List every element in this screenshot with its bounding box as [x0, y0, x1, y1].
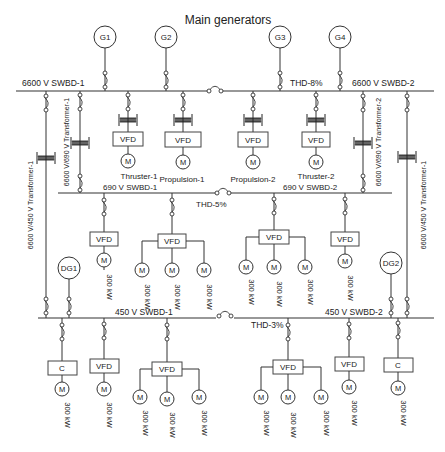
mv-feeder-2[interactable]: VFD M M M 300 kW 300 kW 300 kW — [135, 193, 214, 311]
motor-label: M — [201, 266, 207, 275]
mv-feeder-1-vfd-label: VFD — [96, 235, 112, 244]
lv-feeder-1[interactable]: C M 300 kW — [48, 318, 77, 429]
motor-rating: 300 kW — [306, 279, 315, 305]
mv-feeder-3-vfd-label: VFD — [266, 233, 282, 242]
motor-label: M — [59, 385, 65, 394]
hv-bus-coupler[interactable] — [207, 86, 223, 93]
motor-label: M — [258, 393, 264, 402]
transformer-450v-1-left-label: 6600 V/450 V Transformer-1 — [27, 161, 34, 249]
thruster-2-vfd-label: VFD — [308, 136, 324, 145]
lv-feeder-3[interactable]: VFD M M M 300 kW 300 kW 300 kW — [133, 318, 209, 439]
lv-feeder-3-vfd-label: VFD — [159, 365, 175, 374]
propulsion-2-drive[interactable]: VFD M Propulsion-2 — [231, 91, 276, 184]
motor-rating: 300 kW — [205, 284, 214, 310]
lv-bus: 450 V SWBD-1 450 V SWBD-2 THD-3% — [38, 307, 434, 330]
mv-bus-1-label: 690 V SWBD-1 — [103, 183, 158, 192]
propulsion-2-name: Propulsion-2 — [231, 175, 276, 184]
motor-label: M — [164, 395, 170, 404]
motor-rating: 300 kW — [141, 410, 150, 436]
mv-feeder-3[interactable]: VFD M M M 300 kW 300 kW 300 kW — [239, 193, 315, 308]
motor-rating: 300 kW — [289, 412, 298, 438]
generator-g4[interactable]: G4 — [329, 26, 351, 91]
thruster-1-name: Thruster-1 — [121, 172, 158, 181]
mv-feeder-4[interactable]: VFD M 300 kW — [331, 193, 359, 302]
motor-rating: 300 kW — [262, 410, 271, 436]
mv-feeder-1[interactable]: VFD M 300 kW — [90, 193, 118, 301]
propulsion-1-drive[interactable]: VFD M Propulsion-1 — [160, 91, 205, 184]
generator-g2[interactable]: G2 — [155, 26, 177, 91]
hv-bus: 6600 V SWBD-1 6600 V SWBD-2 THD-8% — [16, 78, 434, 93]
mv-bus-coupler[interactable] — [215, 188, 231, 195]
motor-label: M — [169, 266, 175, 275]
motor-rating: 300 kW — [105, 274, 114, 300]
motor-label: M — [101, 256, 107, 265]
mv-feeder-4-vfd-label: VFD — [337, 235, 353, 244]
motor-label: M — [137, 393, 143, 402]
motor-rating: 300 kW — [173, 284, 182, 310]
motor-rating: 300 kW — [247, 279, 256, 305]
lv-bus-1-label: 450 V SWBD-1 — [115, 307, 173, 317]
mv-bus-2-label: 690 V SWBD-2 — [283, 183, 338, 192]
lv-feeder-2-vfd-label: VFD — [96, 362, 112, 371]
lv-feeder-5-vfd-label: VFD — [341, 360, 357, 369]
transformer-690v-2[interactable]: 6600 V/690 V Transformer-2 — [354, 91, 382, 193]
generator-g1[interactable]: G1 — [94, 26, 116, 91]
motor-rating: 300 kW — [275, 281, 284, 307]
transformer-450v-1-right[interactable]: 6600 V/450 V Transformer-1 — [398, 91, 427, 318]
motor-rating: 300 kW — [168, 412, 177, 438]
motor-label: M — [285, 393, 291, 402]
motor-rating: 300 kW — [350, 400, 359, 426]
motor-rating: 300 kW — [399, 400, 408, 426]
lv-feeder-6-converter-label: C — [395, 361, 401, 370]
thruster-2-drive[interactable]: VFD M Thruster-2 — [298, 91, 335, 181]
thruster-1-drive[interactable]: VFD M Thruster-1 — [113, 91, 158, 181]
transformer-690v-1-label: 6600 V/690 V Transformer-1 — [63, 98, 70, 186]
propulsion-1-motor-label: M — [180, 158, 186, 167]
generator-g4-label: G4 — [335, 33, 346, 42]
lv-feeder-5[interactable]: VFD M 300 kW — [335, 318, 364, 427]
lv-feeder-4[interactable]: VFD M M M 300 kW 300 kW 300 kW — [254, 318, 331, 439]
diagram-title: Main generators — [185, 13, 272, 27]
transformer-450v-1-right-label: 6600 V/450 V Transformer-1 — [420, 161, 427, 249]
motor-rating: 300 kW — [63, 402, 72, 428]
motor-rating: 300 kW — [346, 275, 355, 301]
mv-feeder-2-vfd-label: VFD — [164, 237, 180, 246]
lv-bus-2-label: 450 V SWBD-2 — [325, 307, 383, 317]
lv-thd-label: THD-3% — [251, 320, 284, 330]
motor-label: M — [395, 384, 401, 393]
propulsion-2-motor-label: M — [250, 158, 256, 167]
motor-label: M — [302, 263, 308, 272]
motor-rating: 300 kW — [105, 402, 114, 428]
lv-feeder-1-converter-label: C — [59, 364, 65, 373]
transformer-690v-1[interactable]: 6600 V/690 V Transformer-1 — [63, 91, 89, 193]
motor-label: M — [196, 393, 202, 402]
lv-feeder-6[interactable]: C M 300 kW — [384, 318, 413, 427]
lv-feeder-4-vfd-label: VFD — [280, 363, 296, 372]
diesel-generator-dg2[interactable]: DG2 — [380, 252, 402, 318]
propulsion-1-name: Propulsion-1 — [160, 175, 205, 184]
thruster-1-vfd-label: VFD — [120, 135, 136, 144]
diesel-generator-dg1-label: DG1 — [61, 264, 78, 273]
hv-bus-2-label: 6600 V SWBD-2 — [352, 78, 415, 88]
single-line-diagram: Main generators 6600 V SWBD-1 6600 V SWB… — [0, 0, 445, 452]
lv-feeder-2[interactable]: VFD M 300 kW — [90, 318, 119, 429]
propulsion-1-vfd-label: VFD — [175, 136, 191, 145]
mv-thd-label: THD-5% — [196, 200, 227, 209]
lv-bus-coupler[interactable] — [217, 311, 233, 318]
hv-thd-label: THD-8% — [290, 78, 323, 88]
thruster-2-motor-label: M — [313, 158, 319, 167]
motor-label: M — [271, 263, 277, 272]
generator-g3[interactable]: G3 — [269, 26, 291, 91]
motor-label: M — [139, 266, 145, 275]
transformer-690v-2-label: 6600 V/690 V Transformer-2 — [375, 98, 382, 186]
thruster-1-motor-label: M — [125, 157, 131, 166]
diesel-generator-dg1[interactable]: DG1 — [58, 257, 80, 318]
thruster-2-name: Thruster-2 — [298, 172, 335, 181]
motor-label: M — [243, 263, 249, 272]
motor-label: M — [342, 257, 348, 266]
motor-label: M — [318, 393, 324, 402]
transformer-450v-1-left[interactable]: 6600 V/450 V Transformer-1 — [27, 91, 55, 318]
generator-g1-label: G1 — [100, 33, 111, 42]
motor-rating: 300 kW — [200, 410, 209, 436]
motor-label: M — [101, 385, 107, 394]
